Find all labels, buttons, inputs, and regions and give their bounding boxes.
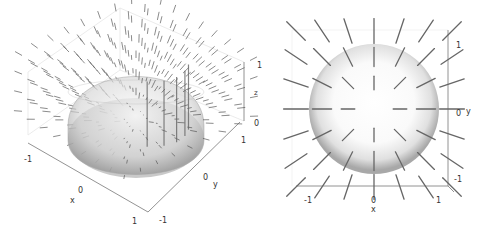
field-arrow bbox=[234, 84, 241, 86]
field-segment bbox=[419, 176, 434, 198]
field-arrow bbox=[125, 45, 126, 53]
x-tick-0: 0 bbox=[371, 196, 376, 205]
field-arrow bbox=[193, 73, 199, 78]
field-arrow bbox=[31, 43, 38, 48]
field-arrow bbox=[143, 95, 144, 97]
field-arrow bbox=[114, 23, 116, 30]
field-arrow bbox=[147, 48, 148, 53]
field-segment bbox=[344, 19, 352, 43]
field-arrow bbox=[222, 75, 229, 78]
x-tick-0: 0 bbox=[78, 186, 83, 195]
field-arrow bbox=[157, 12, 159, 20]
field-arrow bbox=[237, 48, 244, 52]
field-arrow bbox=[59, 82, 66, 86]
field-arrow bbox=[222, 55, 228, 59]
y-axis-label: y bbox=[466, 107, 471, 116]
field-arrow bbox=[212, 70, 219, 74]
field-arrow bbox=[15, 52, 22, 56]
field-arrow bbox=[219, 131, 226, 132]
field-arrow bbox=[250, 76, 257, 79]
field-arrow bbox=[81, 19, 85, 26]
field-arrow bbox=[76, 74, 82, 79]
field-arrow bbox=[46, 94, 53, 96]
field-arrow bbox=[173, 5, 176, 13]
field-arrow bbox=[183, 48, 188, 55]
field-arrow bbox=[190, 90, 196, 93]
field-segment bbox=[418, 153, 435, 170]
field-segment bbox=[315, 176, 330, 198]
field-arrow bbox=[155, 46, 157, 54]
field-segment bbox=[287, 22, 306, 41]
field-arrow bbox=[15, 71, 22, 74]
field-arrow bbox=[196, 77, 203, 82]
field-arrow bbox=[53, 135, 60, 136]
field-arrow bbox=[14, 111, 22, 112]
y-axis-label: y bbox=[213, 180, 218, 189]
field-arrow bbox=[209, 66, 216, 71]
field-arrow bbox=[27, 79, 34, 82]
field-arrow bbox=[234, 64, 241, 67]
field-arrow bbox=[155, 27, 157, 35]
field-arrow bbox=[14, 91, 22, 93]
field-arrow bbox=[209, 86, 217, 89]
y-tick-1: 1 bbox=[241, 136, 246, 145]
z-tick-0: 0 bbox=[254, 119, 259, 128]
field-arrow bbox=[149, 60, 150, 66]
field-arrow bbox=[142, 57, 143, 64]
field-arrow bbox=[98, 11, 101, 19]
field-arrow bbox=[157, 31, 159, 39]
field-arrow bbox=[250, 57, 257, 61]
field-arrow bbox=[121, 61, 123, 69]
z-tick-1: 1 bbox=[257, 61, 262, 70]
field-arrow bbox=[152, 43, 154, 51]
field-arrow bbox=[111, 38, 113, 46]
field-segment bbox=[285, 50, 307, 65]
field-arrow bbox=[160, 16, 162, 23]
field-arrow bbox=[46, 74, 53, 78]
field-arrow bbox=[56, 99, 64, 101]
field-arrow bbox=[167, 54, 171, 62]
field-arrow bbox=[224, 99, 232, 101]
field-arrow bbox=[237, 68, 244, 72]
field-arrow bbox=[122, 42, 123, 50]
field-arrow bbox=[147, 8, 148, 15]
field-arrow bbox=[147, 28, 148, 34]
field-arrow bbox=[128, 70, 129, 75]
field-arrow bbox=[88, 81, 94, 86]
field-arrow bbox=[199, 22, 204, 29]
field-arrow bbox=[180, 64, 185, 70]
field-arrow bbox=[145, 4, 146, 12]
field-arrow bbox=[145, 23, 146, 30]
y-tick-0: 0 bbox=[203, 173, 208, 182]
field-arrow bbox=[203, 100, 209, 102]
field-arrow bbox=[30, 103, 38, 104]
field-arrow bbox=[193, 93, 200, 96]
field-arrow bbox=[72, 91, 79, 94]
field-arrow bbox=[139, 72, 140, 80]
field-arrow bbox=[206, 83, 213, 86]
field-arrow bbox=[212, 50, 218, 55]
field-arrow bbox=[186, 13, 190, 20]
field-arrow bbox=[80, 58, 85, 63]
field-segment bbox=[441, 154, 463, 169]
field-arrow bbox=[142, 19, 143, 27]
field-segment bbox=[418, 49, 435, 66]
field-arrow bbox=[97, 50, 100, 56]
field-arrow bbox=[167, 35, 170, 43]
left-3d-quiver-plot: -1 0 1 x 1 0 y -1 1 z 0 bbox=[0, 0, 275, 234]
field-arrow bbox=[63, 46, 69, 52]
field-arrow bbox=[170, 39, 173, 46]
field-arrow bbox=[130, 86, 131, 89]
field-arrow bbox=[42, 111, 50, 112]
field-arrow bbox=[219, 92, 226, 94]
field-arrow bbox=[170, 20, 173, 28]
field-arrow bbox=[180, 84, 187, 89]
x-axis-label: x bbox=[70, 196, 75, 205]
y-tick-minus1: -1 bbox=[159, 216, 167, 225]
field-arrow bbox=[80, 38, 84, 45]
field-arrow bbox=[199, 61, 205, 66]
field-arrow bbox=[160, 36, 162, 42]
field-segment bbox=[314, 153, 331, 170]
field-arrow bbox=[64, 27, 69, 34]
field-arrow bbox=[219, 72, 225, 75]
